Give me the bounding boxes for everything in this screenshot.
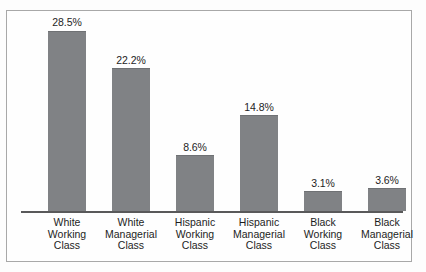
category-label-5-line-2: Class xyxy=(351,240,423,252)
category-labels-region: White Working Class White Managerial Cla… xyxy=(21,217,403,263)
bar-value-label-5: 3.6% xyxy=(375,175,399,186)
bar-value-label-1: 22.2% xyxy=(116,55,145,66)
category-label-2-line-2: Class xyxy=(159,240,231,252)
category-label-3-line-0: Hispanic xyxy=(223,217,295,229)
bar-slot-4: 3.1% xyxy=(291,17,355,211)
bar-column-0: 28.5% xyxy=(35,17,99,211)
bar-slot-3: 14.8% xyxy=(227,17,291,211)
bar-slot-5: 3.6% xyxy=(355,17,419,211)
category-label-3-line-2: Class xyxy=(223,240,295,252)
bar-column-1: 22.2% xyxy=(99,17,163,211)
bar-rect-0 xyxy=(48,31,86,212)
category-label-0: White Working Class xyxy=(31,217,103,252)
bar-column-4: 3.1% xyxy=(291,17,355,211)
plot-area: 28.5% 22.2% 8.6% xyxy=(21,17,403,255)
category-label-4-line-2: Class xyxy=(287,240,359,252)
bar-value-label-3: 14.8% xyxy=(244,102,273,113)
bar-slot-2: 8.6% xyxy=(163,17,227,211)
category-label-3: Hispanic Managerial Class xyxy=(223,217,295,252)
bar-rect-5 xyxy=(368,188,406,211)
bar-value-label-2: 8.6% xyxy=(183,142,207,153)
category-label-0-line-2: Class xyxy=(31,240,103,252)
category-label-4-line-0: Black xyxy=(287,217,359,229)
category-label-4: Black Working Class xyxy=(287,217,359,252)
bar-rect-4 xyxy=(304,191,342,211)
bar-chart-figure: 28.5% 22.2% 8.6% xyxy=(0,0,426,272)
category-label-2-line-0: Hispanic xyxy=(159,217,231,229)
bar-column-5: 3.6% xyxy=(355,17,419,211)
category-label-1: White Managerial Class xyxy=(95,217,167,252)
category-label-0-line-0: White xyxy=(31,217,103,229)
bar-value-label-4: 3.1% xyxy=(311,178,335,189)
category-label-1-line-0: White xyxy=(95,217,167,229)
bar-rect-3 xyxy=(240,115,278,211)
category-label-5: Black Managerial Class xyxy=(351,217,423,252)
bar-column-3: 14.8% xyxy=(227,17,291,211)
bar-slot-1: 22.2% xyxy=(99,17,163,211)
x-axis-baseline xyxy=(21,211,403,213)
category-label-2: Hispanic Working Class xyxy=(159,217,231,252)
chart-frame-border: 28.5% 22.2% 8.6% xyxy=(6,10,412,262)
category-label-1-line-2: Class xyxy=(95,240,167,252)
bar-rect-2 xyxy=(176,155,214,211)
bars-region: 28.5% 22.2% 8.6% xyxy=(21,17,403,211)
bar-value-label-0: 28.5% xyxy=(52,17,81,28)
category-label-5-line-0: Black xyxy=(351,217,423,229)
bar-rect-1 xyxy=(112,68,150,211)
bar-slot-0: 28.5% xyxy=(35,17,99,211)
bar-column-2: 8.6% xyxy=(163,17,227,211)
